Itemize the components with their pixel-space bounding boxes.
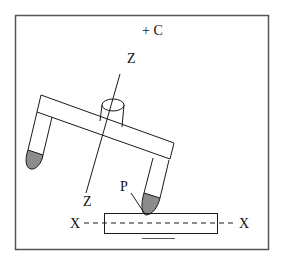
right-stylus-tip — [142, 193, 160, 215]
contact-point-label: P — [120, 179, 128, 194]
left-stylus — [28, 112, 52, 155]
right-stylus — [144, 158, 169, 198]
x-axis-right-label: X — [239, 216, 249, 231]
stylus-probe-diagram: + C Z Z P X X — [0, 0, 281, 261]
left-stylus-tip — [26, 150, 43, 169]
z-axis-top-label: Z — [127, 51, 136, 66]
z-axis-bottom-label: Z — [83, 194, 92, 209]
rotation-axis-label: + C — [142, 23, 163, 38]
x-axis-left-label: X — [70, 216, 80, 231]
z-axis-line — [86, 74, 120, 193]
figure-frame — [16, 16, 269, 250]
